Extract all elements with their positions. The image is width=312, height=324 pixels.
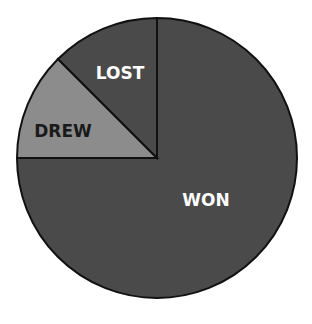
pie-chart: LOST DREW WON [0,0,312,324]
label-drew: DREW [34,121,92,141]
label-lost: LOST [96,63,145,83]
label-won: WON [182,190,229,210]
